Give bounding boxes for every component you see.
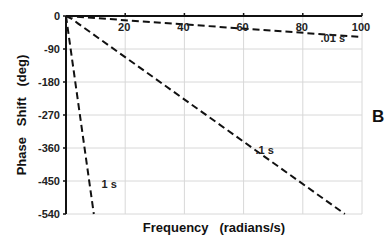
series-line-01ss (66, 16, 362, 37)
x-axis-label: Frequency (radians/s) (143, 220, 285, 235)
y-tick-label: -90 (44, 43, 60, 55)
y-axis-label: Phase Shift (deg) (14, 55, 29, 176)
phase-shift-chart: 204060801000-90-180-270-360-450-540 1 s.… (0, 0, 392, 247)
y-tick-label: -180 (38, 76, 60, 88)
series-label: .01 s (321, 32, 345, 44)
y-tick-label: 0 (54, 10, 60, 22)
x-tick-label: 100 (352, 21, 370, 33)
y-tick-label: -360 (38, 142, 60, 154)
x-tick-label: 80 (296, 21, 308, 33)
panel-label: B (372, 107, 384, 126)
y-tick-label: -450 (38, 175, 60, 187)
series-labels: 1 s.1 s.01 s (102, 32, 346, 190)
series-label: .1 s (255, 144, 273, 156)
x-tick-label: 60 (236, 21, 248, 33)
y-tick-label: -540 (38, 208, 60, 220)
series-label: 1 s (102, 178, 117, 190)
x-tick-label: 40 (177, 21, 189, 33)
x-tick-label: 20 (118, 21, 130, 33)
y-tick-label: -270 (38, 109, 60, 121)
